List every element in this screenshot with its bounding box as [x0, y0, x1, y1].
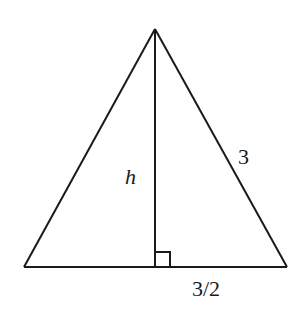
right-angle-marker	[155, 252, 170, 267]
right-side-length-3	[155, 29, 287, 267]
side-length-label: 3	[238, 144, 249, 169]
triangle-diagram: h 3 3/2	[0, 0, 296, 322]
half-base-label: 3/2	[192, 276, 220, 301]
height-label: h	[125, 164, 136, 189]
left-side	[24, 29, 155, 267]
